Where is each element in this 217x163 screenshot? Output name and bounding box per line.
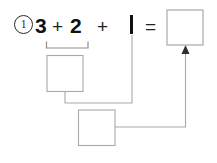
final-answer-box[interactable] (167, 10, 203, 45)
arrow-up-icon (182, 45, 190, 54)
partial-sum-box[interactable] (47, 56, 83, 92)
math-worksheet-problem: 1 3 + 2 + = (0, 0, 217, 163)
grouping-bracket-icon (47, 42, 89, 49)
second-partial-box[interactable] (79, 110, 116, 146)
diagram-layer (0, 0, 217, 163)
connector-second-to-answer (115, 52, 186, 127)
